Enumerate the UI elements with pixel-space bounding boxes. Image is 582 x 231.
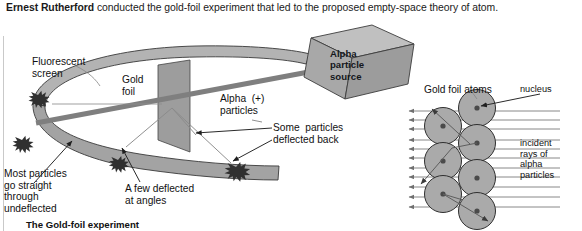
arrow-deflected-back-1 <box>196 128 272 133</box>
label-most-particles: Most particles go straight through undef… <box>4 168 67 214</box>
gold-foil-experiment-figure: Ernest Rutherford conducted the gold-foi… <box>0 0 582 231</box>
label-gold-foil: Gold foil <box>122 74 144 97</box>
gold-foil-sheet <box>158 60 190 152</box>
label-alpha-source: Alpha particle source <box>330 48 364 82</box>
figure-caption: The Gold-foil experiment <box>26 219 139 230</box>
atom-column-right <box>459 90 496 230</box>
label-some-particles-deflected-back: Some particles deflected back <box>273 122 343 145</box>
atom-column-left <box>425 108 462 213</box>
label-alpha-particles: Alpha (+) particles <box>220 93 264 116</box>
diagram-canvas <box>0 0 582 231</box>
arrow-deflected-back-2 <box>233 140 272 161</box>
label-gold-foil-atoms: Gold foil atoms <box>424 84 492 96</box>
label-incident-rays: incident rays of alpha particles <box>520 138 554 180</box>
scintillation-2 <box>13 136 34 154</box>
label-fluorescent-screen: Fluorescent screen <box>32 56 85 79</box>
label-nucleus: nucleus <box>520 84 552 95</box>
label-few-deflected: A few deflected at angles <box>125 183 194 206</box>
